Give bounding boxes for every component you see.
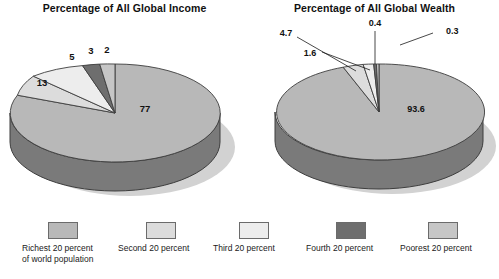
pie-top-wealth [277,64,485,160]
slice-value-second-wealth: 4.7 [280,28,293,38]
chart-panel-wealth: Percentage of All Global Wealth [250,0,499,215]
pie-chart-income: 77 13 5 3 2 [0,14,249,214]
legend-label-richest: Richest 20 percent of world population [22,243,132,264]
slice-value-fourth-income: 3 [88,45,93,56]
slice-value-fourth-wealth: 0.4 [369,18,382,28]
slice-value-richest-income: 77 [140,103,151,114]
legend-swatch-third [239,222,269,239]
slice-value-poorest-wealth: 0.3 [446,26,459,36]
figure-global-income-wealth: Percentage of All Global Income [0,0,499,279]
chart-panel-income: Percentage of All Global Income [0,0,249,215]
legend-swatch-richest [48,222,78,239]
chart-title-wealth: Percentage of All Global Wealth [250,2,499,14]
legend-swatch-second [146,222,176,239]
slice-value-second-income: 13 [37,77,48,88]
legend-label-second: Second 20 percent [118,243,228,254]
legend-label-poorest: Poorest 20 percent [400,243,499,254]
pie-chart-wealth: 93.6 4.7 1.6 0.4 0.3 [250,14,499,214]
slice-value-richest-wealth: 93.6 [407,104,425,114]
legend-item-richest: Richest 20 percent of world population [22,222,132,264]
legend-swatch-poorest [428,222,458,239]
slice-value-poorest-income: 2 [104,44,109,55]
slice-richest-wealth [277,64,485,160]
legend: Richest 20 percent of world population S… [0,222,499,279]
legend-item-second: Second 20 percent [118,222,228,254]
legend-item-poorest: Poorest 20 percent [400,222,499,254]
slice-value-third-income: 5 [69,51,75,62]
chart-title-income: Percentage of All Global Income [0,2,249,14]
leader-line-poorest-wealth [400,33,433,45]
legend-swatch-fourth [336,222,366,239]
slice-value-third-wealth: 1.6 [304,48,317,58]
